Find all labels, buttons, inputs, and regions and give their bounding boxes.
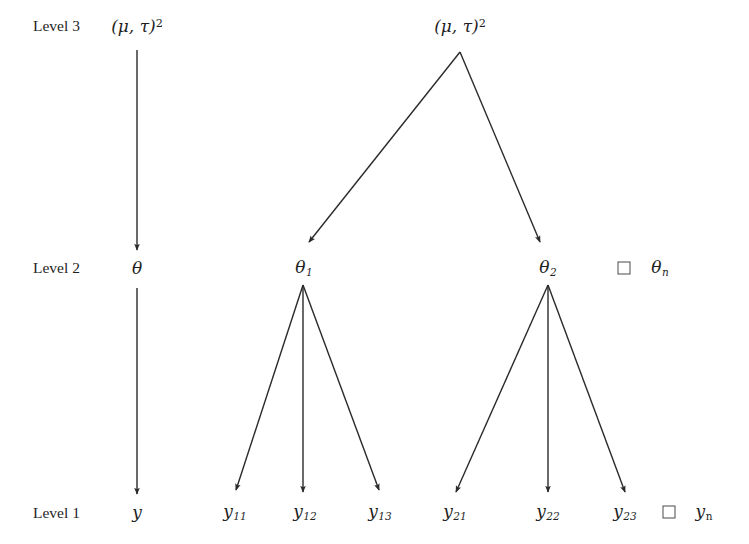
node-y-21: y21 <box>443 503 467 521</box>
edge-arrow <box>236 285 303 490</box>
level-label-level3: Level 3 <box>33 18 80 34</box>
edge-arrow <box>456 285 548 492</box>
node-theta-n: θn <box>651 259 669 277</box>
node-right-hyper: (μ, τ)2 <box>434 18 486 35</box>
edge-arrow <box>309 52 460 242</box>
node-y-11: y11 <box>223 503 247 521</box>
node-symbol: y12 <box>293 501 317 521</box>
node-subscript: 1 <box>306 265 313 277</box>
edge-layer <box>0 0 749 544</box>
node-symbol: θ <box>132 258 142 278</box>
node-superscript: 2 <box>479 17 486 30</box>
node-superscript: 2 <box>156 17 163 30</box>
node-left-hyper: (μ, τ)2 <box>111 18 163 35</box>
node-subscript: 2 <box>550 265 557 277</box>
node-symbol: θ1 <box>295 257 312 277</box>
node-symbol: y11 <box>223 501 247 521</box>
node-symbol: y13 <box>368 501 392 521</box>
node-subscript: 23 <box>623 509 636 521</box>
node-subscript: 21 <box>453 509 466 521</box>
ellipsis-box-icon <box>663 506 676 519</box>
level-label-level1: Level 1 <box>33 505 80 521</box>
node-symbol: y <box>132 502 142 522</box>
node-symbol: y23 <box>613 501 637 521</box>
node-left-theta: θ <box>132 260 142 277</box>
node-subscript: 22 <box>546 509 559 521</box>
node-y-13: y13 <box>368 503 392 521</box>
edge-arrow <box>548 285 625 492</box>
node-y-12: y12 <box>293 503 317 521</box>
node-subscript: 13 <box>378 509 391 521</box>
edge-arrow <box>460 52 540 242</box>
level-label-level2: Level 2 <box>33 260 80 276</box>
node-y-23: y23 <box>613 503 637 521</box>
node-symbol: y21 <box>443 501 467 521</box>
node-y-n: yn <box>696 503 713 521</box>
node-symbol: (μ, τ)2 <box>111 16 163 36</box>
node-symbol: yn <box>696 501 713 521</box>
ellipsis-box-icon <box>618 262 631 275</box>
node-subscript: 12 <box>303 509 316 521</box>
node-symbol: θ2 <box>539 257 556 277</box>
node-symbol: y22 <box>536 501 560 521</box>
node-subscript: n <box>662 265 669 277</box>
node-subscript: n <box>706 509 713 521</box>
node-theta-1: θ1 <box>295 259 312 277</box>
node-y-22: y22 <box>536 503 560 521</box>
node-subscript: 11 <box>233 509 246 521</box>
node-symbol: (μ, τ)2 <box>434 16 486 36</box>
node-theta-2: θ2 <box>539 259 556 277</box>
node-left-y: y <box>132 504 142 521</box>
edge-arrow <box>303 285 379 490</box>
hierarchical-model-diagram: Level 3Level 2Level 1 (μ, τ)2θy(μ, τ)2θ1… <box>0 0 749 544</box>
node-symbol: θn <box>651 257 669 277</box>
